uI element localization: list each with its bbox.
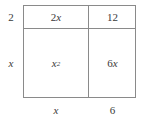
cell-top-right: 12 xyxy=(89,6,136,28)
dimension-label-left-bottom-text: x xyxy=(9,58,14,69)
dimension-label-left-bottom: x xyxy=(0,29,22,98)
cell-bottom-left: x2 xyxy=(24,29,88,98)
cell-top-left-variable: x xyxy=(56,12,61,23)
cell-bottom-right: 6x xyxy=(89,29,136,98)
dimension-label-bottom-right: 6 xyxy=(89,100,136,120)
dimension-label-bottom-left-text: x xyxy=(54,105,59,116)
dimension-label-left-top: 2 xyxy=(0,6,22,28)
cell-top-left: 2x xyxy=(24,6,88,28)
dimension-label-bottom-left: x xyxy=(24,100,88,120)
dimension-label-bottom-right-text: 6 xyxy=(110,105,116,116)
cell-bottom-left-variable: x xyxy=(52,58,57,69)
cell-bottom-right-variable: x xyxy=(113,58,118,69)
cell-top-right-coefficient: 12 xyxy=(107,12,118,23)
dimension-label-left-top-text: 2 xyxy=(8,12,14,23)
area-model-figure: 2x 12 x2 6x 2 x x 6 xyxy=(0,0,143,127)
